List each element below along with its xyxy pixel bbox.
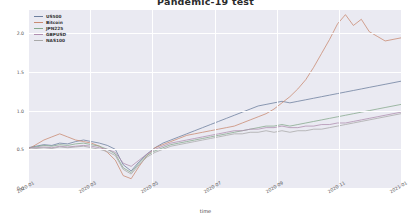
plot-area: [28, 10, 401, 188]
legend-swatch-icon: [34, 16, 43, 17]
legend-item-bitcoin[interactable]: Bitcoin: [34, 20, 66, 25]
gridline-vertical: [215, 10, 216, 188]
chart-legend: US500BitcoinJPN225GBPUSDNAS100: [32, 13, 68, 45]
legend-item-nas100[interactable]: NAS100: [34, 38, 66, 43]
legend-item-label: JPN225: [46, 26, 63, 31]
x-axis-label: time: [0, 208, 411, 214]
gridline-vertical: [339, 10, 340, 188]
legend-item-label: GBPUSD: [46, 32, 66, 37]
legend-swatch-icon: [34, 28, 43, 29]
y-tick-label: 1.0: [2, 108, 24, 113]
legend-item-gbpusd[interactable]: GBPUSD: [34, 32, 66, 37]
legend-item-jpn225[interactable]: JPN225: [34, 26, 66, 31]
gridline-vertical: [90, 10, 91, 188]
chart-root: Pandemic-19 test 0.00.51.01.52.0 2020-01…: [0, 0, 411, 224]
legend-item-label: Bitcoin: [46, 20, 63, 25]
chart-title: Pandemic-19 test: [0, 0, 411, 7]
gridline-vertical: [152, 10, 153, 188]
legend-swatch-icon: [34, 40, 43, 41]
legend-item-label: US500: [46, 14, 62, 19]
legend-item-us500[interactable]: US500: [34, 14, 66, 19]
gridline-vertical: [28, 10, 29, 188]
legend-swatch-icon: [34, 34, 43, 35]
y-tick-label: 1.5: [2, 69, 24, 74]
y-tick-label: 2.0: [2, 31, 24, 36]
gridline-vertical: [277, 10, 278, 188]
legend-item-label: NAS100: [46, 38, 65, 43]
y-tick-label: 0.5: [2, 147, 24, 152]
legend-swatch-icon: [34, 22, 43, 23]
